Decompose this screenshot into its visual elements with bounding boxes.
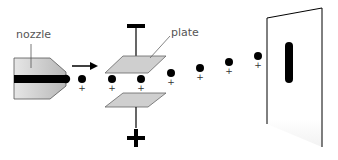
droplet: + <box>137 75 145 93</box>
droplet: + <box>167 69 175 87</box>
nozzle <box>14 44 70 99</box>
svg-text:+: + <box>196 72 204 82</box>
plate-leader-line <box>150 36 170 58</box>
droplet: + <box>225 58 233 76</box>
negative-plate <box>105 24 170 73</box>
positive-plate <box>105 93 166 147</box>
droplet: + <box>254 52 262 70</box>
plate-label: plate <box>171 26 199 39</box>
minus-sign-icon <box>127 24 145 28</box>
droplet: + <box>78 75 86 93</box>
direction-arrow-icon <box>72 62 98 70</box>
droplet: + <box>196 64 204 82</box>
svg-text:+: + <box>137 83 145 93</box>
svg-text:+: + <box>167 77 175 87</box>
svg-text:+: + <box>78 83 86 93</box>
svg-text:+: + <box>254 60 262 70</box>
target-screen <box>267 8 322 147</box>
ink-mark <box>285 42 293 83</box>
inkjet-deflection-diagram: + + + + + + + <box>0 0 338 160</box>
svg-text:+: + <box>225 66 233 76</box>
droplet: + <box>108 75 116 93</box>
nozzle-label: nozzle <box>16 28 51 41</box>
svg-text:+: + <box>108 83 116 93</box>
